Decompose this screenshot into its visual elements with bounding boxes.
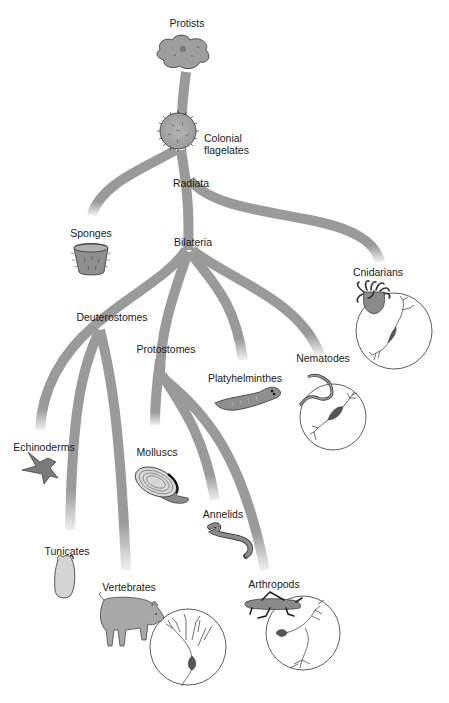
- branch-molluscs: [155, 360, 160, 425]
- label-tunicates: Tunicates: [44, 545, 89, 557]
- label-cnidarians: Cnidarians: [353, 266, 403, 278]
- arthropod-icon: [245, 592, 340, 670]
- label-protists: Protists: [169, 17, 204, 29]
- tunicate-icon: [55, 556, 75, 598]
- label-bilateria: Bilateria: [174, 236, 212, 248]
- label-vertebrates: Vertebrates: [102, 581, 156, 593]
- label-annelids: Annelids: [203, 508, 243, 520]
- colonial-flagellate-icon: [157, 110, 199, 152]
- starfish-icon: [22, 452, 58, 484]
- label-colonial-flagellates: Colonial flagelates: [204, 132, 249, 156]
- label-platyhelminthes: Platyhelminthes: [208, 372, 282, 384]
- mollusc-icon: [131, 461, 189, 503]
- label-deuterostomes: Deuterostomes: [76, 311, 147, 323]
- label-echinoderms: Echinoderms: [13, 441, 74, 453]
- label-colonial-line1: Colonial: [204, 132, 249, 144]
- sponge-icon: [71, 244, 111, 276]
- label-molluscs: Molluscs: [137, 446, 178, 458]
- label-arthropods: Arthropods: [248, 578, 299, 590]
- label-sponges: Sponges: [70, 227, 111, 239]
- label-colonial-line2: flagelates: [204, 144, 249, 156]
- branch-vertebrates: [100, 330, 126, 570]
- protist-icon: [157, 35, 209, 69]
- branch-nematodes: [192, 250, 320, 355]
- cnidarian-icon: [356, 281, 432, 369]
- vertebrate-icon: [100, 592, 226, 686]
- phylogenetic-tree: [0, 0, 449, 703]
- label-nematodes: Nematodes: [296, 352, 350, 364]
- label-radiata: Radiata: [173, 177, 209, 189]
- branch-tunicates: [70, 330, 100, 530]
- annelid-icon: [210, 525, 250, 556]
- branch-sponges: [92, 150, 176, 215]
- flatworm-icon: [215, 387, 281, 410]
- nematode-icon: [300, 375, 366, 450]
- branch-protists-colonial: [182, 72, 186, 118]
- branch-trunk: [181, 150, 189, 250]
- branch-cnidarians: [190, 180, 380, 262]
- label-protostomes: Protostomes: [137, 343, 196, 355]
